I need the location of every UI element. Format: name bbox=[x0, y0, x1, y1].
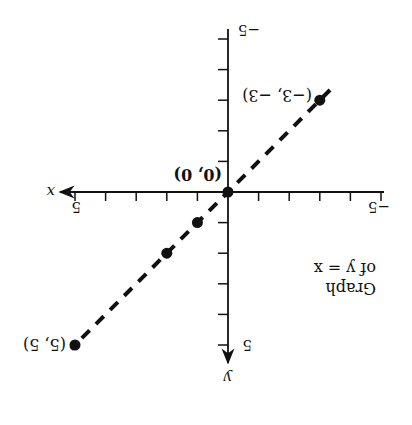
point-label-5: (5, 5) bbox=[23, 335, 66, 354]
data-point bbox=[192, 217, 203, 228]
y-axis-label: y bbox=[223, 369, 233, 387]
point-label-origin: (0, 0) bbox=[173, 165, 222, 184]
graph-figure: −5 5 5 −5 x y (−3, −3) (0, 0) (5, 5) Gra… bbox=[0, 0, 412, 425]
y-tick-label-5: 5 bbox=[242, 336, 252, 354]
data-point bbox=[314, 95, 325, 106]
data-point bbox=[70, 340, 81, 351]
data-point bbox=[161, 248, 172, 259]
point-label-neg3: (−3, −3) bbox=[242, 86, 312, 105]
coordinate-plane: −5 5 5 −5 x y (−3, −3) (0, 0) (5, 5) Gra… bbox=[0, 0, 412, 425]
graph-title-line1: Graph bbox=[325, 279, 376, 298]
data-point bbox=[223, 187, 234, 198]
y-tick-label-neg5: −5 bbox=[238, 21, 260, 39]
graph-title-line2: of y = x bbox=[314, 259, 376, 278]
x-axis-label: x bbox=[46, 183, 55, 201]
x-tick-label-neg5: −5 bbox=[368, 198, 390, 216]
x-tick-label-5: 5 bbox=[71, 198, 81, 216]
